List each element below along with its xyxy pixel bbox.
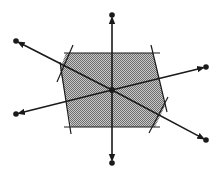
endpoint-dot: [109, 160, 115, 166]
center-point: [109, 87, 115, 93]
endpoint-dot: [203, 64, 209, 70]
endpoint-dot: [109, 12, 115, 18]
endpoint-dot: [13, 111, 19, 117]
polygon-diagram: [0, 0, 220, 178]
endpoint-dot: [203, 137, 209, 143]
endpoint-dot: [13, 38, 19, 44]
